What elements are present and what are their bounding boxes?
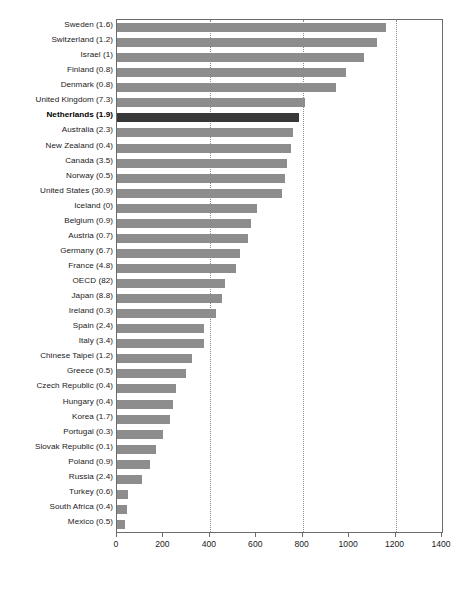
axis-tick-label: 400 — [202, 539, 216, 549]
axis-tick-label: 0 — [114, 539, 119, 549]
bar — [117, 128, 293, 137]
category-label: Ireland (0.3) — [0, 307, 113, 315]
bar — [117, 113, 299, 122]
gridline-800 — [303, 20, 304, 532]
category-label: Norway (0.5) — [0, 172, 113, 180]
category-label: Greece (0.5) — [0, 367, 113, 375]
category-label: Iceland (0) — [0, 202, 113, 210]
bar — [117, 324, 204, 333]
category-label: United States (30.9) — [0, 187, 113, 195]
axis-tick — [162, 533, 163, 537]
category-label: United Kingdom (7.3) — [0, 96, 113, 104]
category-label: Israel (1) — [0, 51, 113, 59]
bar — [117, 384, 176, 393]
category-label: Portugal (0.3) — [0, 428, 113, 436]
bar — [117, 505, 127, 514]
bar — [117, 309, 216, 318]
axis-tick — [116, 533, 117, 537]
axis-tick — [255, 533, 256, 537]
category-label: Austria (0.7) — [0, 232, 113, 240]
bar — [117, 460, 150, 469]
category-label: South Africa (0.4) — [0, 503, 113, 511]
axis-tick-label: 600 — [248, 539, 262, 549]
bar — [117, 38, 377, 47]
category-label: Mexico (0.5) — [0, 518, 113, 526]
value-axis: 0200400600800100012001400 — [116, 533, 443, 559]
category-label: Australia (2.3) — [0, 126, 113, 134]
axis-tick-label: 800 — [295, 539, 309, 549]
bar — [117, 234, 248, 243]
category-label: New Zealand (0.4) — [0, 142, 113, 150]
axis-tick — [209, 533, 210, 537]
bar — [117, 144, 291, 153]
category-label: Germany (6.7) — [0, 247, 113, 255]
bar — [117, 279, 225, 288]
category-label: Japan (8.8) — [0, 292, 113, 300]
bar — [117, 445, 156, 454]
bar — [117, 520, 125, 529]
category-label: Canada (3.5) — [0, 157, 113, 165]
bar — [117, 369, 186, 378]
category-label: OECD (82) — [0, 277, 113, 285]
gridline-400 — [210, 20, 211, 532]
category-label: Netherlands (1.9) — [0, 111, 113, 119]
axis-tick-label: 200 — [155, 539, 169, 549]
bar — [117, 475, 142, 484]
bar — [117, 219, 251, 228]
category-label: Hungary (0.4) — [0, 398, 113, 406]
bar — [117, 249, 240, 258]
bar — [117, 430, 163, 439]
bar — [117, 98, 305, 107]
bar — [117, 354, 192, 363]
category-label: Poland (0.9) — [0, 458, 113, 466]
gridline-1200 — [396, 20, 397, 532]
axis-tick-label: 1200 — [385, 539, 404, 549]
axis-tick — [348, 533, 349, 537]
bar — [117, 159, 287, 168]
category-label: Denmark (0.8) — [0, 81, 113, 89]
bar — [117, 68, 346, 77]
bar — [117, 189, 282, 198]
category-label: Spain (2.4) — [0, 322, 113, 330]
category-label: Italy (3.4) — [0, 337, 113, 345]
axis-tick — [302, 533, 303, 537]
category-label: Switzerland (1.2) — [0, 36, 113, 44]
category-label: Slovak Republic (0.1) — [0, 443, 113, 451]
category-label: Finland (0.8) — [0, 66, 113, 74]
category-label: Chinese Taipei (1.2) — [0, 352, 113, 360]
axis-tick — [395, 533, 396, 537]
axis-tick-label: 1000 — [339, 539, 358, 549]
plot-area — [116, 19, 443, 533]
bar — [117, 83, 336, 92]
axis-tick-label: 1400 — [431, 539, 450, 549]
bar-chart-figure: Sweden (1.6)Switzerland (1.2)Israel (1)F… — [0, 0, 474, 590]
category-label: Korea (1.7) — [0, 413, 113, 421]
category-label: France (4.8) — [0, 262, 113, 270]
bar — [117, 339, 204, 348]
bar — [117, 294, 222, 303]
bar — [117, 264, 236, 273]
bar — [117, 204, 257, 213]
category-label: Czech Republic (0.4) — [0, 382, 113, 390]
category-axis-labels: Sweden (1.6)Switzerland (1.2)Israel (1)F… — [0, 18, 113, 534]
bar — [117, 400, 173, 409]
category-label: Turkey (0.6) — [0, 488, 113, 496]
category-label: Russia (2.4) — [0, 473, 113, 481]
bar — [117, 23, 386, 32]
bar — [117, 174, 285, 183]
category-label: Belgium (0.9) — [0, 217, 113, 225]
bar — [117, 415, 170, 424]
category-label: Sweden (1.6) — [0, 21, 113, 29]
bar — [117, 490, 128, 499]
bar — [117, 53, 364, 62]
axis-tick — [441, 533, 442, 537]
